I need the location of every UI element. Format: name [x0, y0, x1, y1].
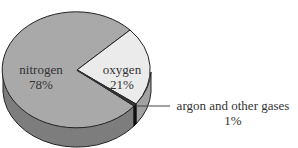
label-argon-name: argon and other gases [170, 98, 296, 113]
label-oxygen: oxygen 21% [92, 62, 152, 92]
label-oxygen-pct: 21% [92, 77, 152, 92]
label-nitrogen-pct: 78% [10, 77, 72, 92]
label-argon: argon and other gases 1% [170, 98, 296, 128]
label-nitrogen: nitrogen 78% [10, 62, 72, 92]
label-oxygen-name: oxygen [92, 62, 152, 77]
pie-side-argon [134, 104, 136, 126]
label-nitrogen-name: nitrogen [10, 62, 72, 77]
label-argon-pct: 1% [170, 113, 296, 128]
